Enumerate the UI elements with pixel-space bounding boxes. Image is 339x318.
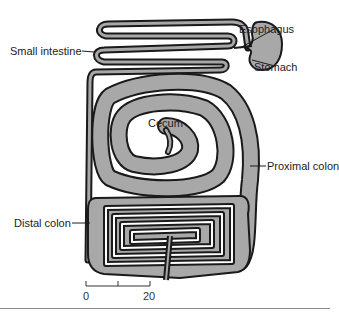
esophagus-label: Esophagus (239, 23, 294, 35)
scale-end-label: 20 (143, 290, 155, 302)
distal-colon-label: Distal colon (14, 217, 71, 229)
bottom-divider (0, 308, 330, 309)
cecum-label: Cecum (148, 117, 183, 129)
scale-start-label: 0 (83, 290, 89, 302)
stomach-label: Stomach (254, 61, 297, 73)
small-intestine-leader (82, 51, 94, 52)
scale-bar (86, 281, 150, 286)
proximal-colon-label: Proximal colon (267, 160, 339, 172)
small-intestine-label: Small intestine (10, 45, 82, 57)
